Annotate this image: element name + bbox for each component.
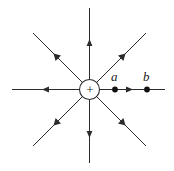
electric-field-diagram: + a b [0,0,174,171]
arrowhead-up [87,39,93,46]
point-b-dot [144,87,150,93]
arrowhead-left [42,87,49,93]
arrowhead-down [87,131,93,138]
charge-sign-label: + [80,80,100,100]
point-a-dot [112,87,118,93]
point-a-label: a [111,70,118,83]
point-b-label: b [143,70,150,83]
arrowhead-right [126,87,133,93]
